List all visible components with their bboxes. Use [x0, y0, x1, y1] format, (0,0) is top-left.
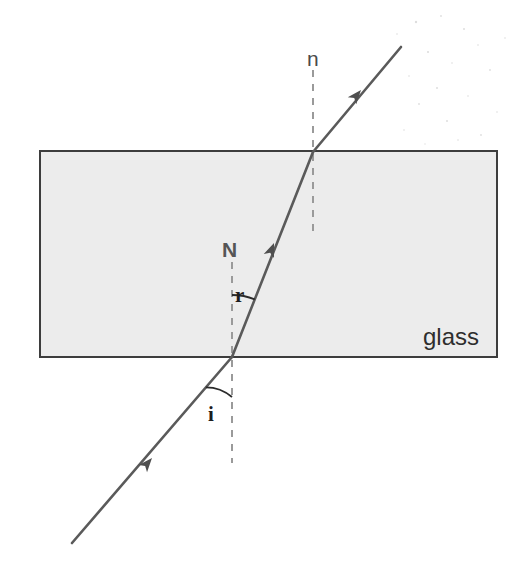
scan-speckle	[408, 75, 410, 77]
scan-speckle	[480, 134, 482, 136]
scan-speckle	[467, 95, 469, 97]
angle-label-refraction: r	[235, 285, 244, 306]
glass-label: glass	[423, 325, 479, 349]
scan-speckle	[446, 120, 448, 122]
diagram-canvas	[0, 0, 522, 583]
incident-ray	[72, 357, 232, 543]
scan-speckle	[504, 37, 506, 39]
scan-speckle	[415, 21, 417, 23]
scan-speckle	[427, 51, 429, 53]
scan-speckle	[457, 139, 459, 141]
scan-speckle	[489, 69, 491, 71]
emergent-ray-arrowhead	[348, 86, 365, 104]
refraction-diagram: n N r i glass	[0, 0, 522, 583]
scan-speckle	[440, 15, 442, 17]
scan-speckles	[389, 15, 506, 145]
scan-speckle	[403, 129, 405, 131]
scan-speckle	[396, 33, 398, 35]
normal-label-upper: n	[307, 48, 319, 69]
angle-label-incidence: i	[208, 404, 214, 425]
angle-arc-incidence	[206, 387, 232, 397]
scan-speckle	[477, 44, 479, 46]
scan-speckle	[496, 111, 498, 113]
scan-speckle	[418, 103, 420, 105]
scan-speckle	[463, 28, 465, 30]
normal-label-lower: N	[222, 239, 237, 260]
scan-speckle	[436, 87, 438, 89]
scan-speckle	[424, 143, 425, 144]
scan-speckle	[451, 62, 453, 64]
